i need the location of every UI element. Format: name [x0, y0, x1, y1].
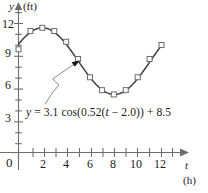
x-tick-label-6: 6: [87, 158, 93, 170]
y-tick-label-12: 12: [2, 18, 14, 30]
data-point: [135, 75, 140, 80]
x-tick-label-10: 10: [130, 158, 142, 170]
x-tick-label-2: 2: [40, 158, 46, 170]
data-point: [159, 43, 164, 48]
data-point: [88, 75, 93, 80]
data-point: [147, 56, 152, 61]
plot-canvas: [0, 0, 208, 193]
x-axis-label: t: [185, 160, 188, 171]
y-tick-label-3: 3: [5, 112, 11, 124]
data-point: [123, 88, 128, 93]
y-axis-variable: y: [9, 0, 14, 12]
equation-annotation: y = 3.1 cos(0.52(t − 2.0)) + 8.5: [26, 106, 171, 118]
equation-frequency: 0.52: [81, 106, 102, 118]
y-tick-label-6: 6: [5, 79, 11, 91]
equation-function: cos: [61, 106, 77, 118]
equation-leader-line: [45, 60, 80, 104]
x-tick-label-4: 4: [63, 158, 69, 170]
data-point: [64, 39, 69, 44]
y-axis: [15, 2, 22, 170]
cosine-curve: [19, 28, 162, 95]
equation-lhs: y: [26, 106, 31, 118]
data-point: [52, 29, 57, 34]
x-tick-label-12: 12: [154, 158, 166, 170]
y-axis-unit: (ft): [23, 0, 37, 12]
x-axis-arrowhead: [180, 149, 189, 157]
x-tick-label-8: 8: [110, 158, 116, 170]
equation-close-parens: )): [136, 106, 144, 118]
data-point: [99, 88, 104, 93]
equation-phase: 2.0: [121, 106, 136, 118]
y-tick-label-9: 9: [5, 47, 11, 59]
tide-graph-figure: y(ft) t (h) 12 9 6 3 0 2 4 6 8 10 12 y =…: [0, 0, 208, 193]
data-point: [16, 47, 21, 52]
equation-equals: =: [34, 106, 41, 118]
equation-offset: 8.5: [156, 106, 171, 118]
data-point: [28, 29, 33, 34]
equation-amplitude: 3.1: [44, 106, 59, 118]
equation-minus: −: [109, 106, 122, 118]
data-point: [111, 92, 116, 97]
x-tick-label-0: 0: [6, 156, 13, 169]
equation-plus: +: [147, 106, 154, 118]
data-markers: [16, 25, 164, 97]
data-point: [40, 25, 45, 30]
x-axis: [0, 149, 189, 157]
y-axis-label: y(ft): [9, 1, 37, 12]
x-axis-unit: (h): [183, 175, 196, 186]
